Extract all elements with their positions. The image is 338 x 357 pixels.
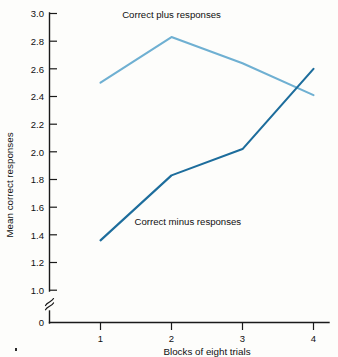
y-tick-label-1.4: 1.4 (31, 230, 44, 241)
series-line-correct-plus (101, 37, 314, 95)
series-annotation-correct-plus: Correct plus responses (122, 9, 221, 20)
chart-plot-area: 3.0 2.8 2.6 2.4 2.2 2.0 1.8 1.6 1.4 1.2 … (0, 0, 338, 357)
y-tick-label-1.6: 1.6 (31, 202, 44, 213)
y-tick-label-2.2: 2.2 (31, 119, 44, 130)
y-axis-tick-labels: 3.0 2.8 2.6 2.4 2.2 2.0 1.8 1.6 1.4 1.2 … (31, 8, 44, 328)
y-tick-label-2.6: 2.6 (31, 64, 44, 75)
y-tick-label-1.2: 1.2 (31, 257, 44, 268)
y-tick-label-0: 0 (39, 317, 44, 328)
x-tick-label-4: 4 (311, 333, 316, 344)
line-chart-figure: 3.0 2.8 2.6 2.4 2.2 2.0 1.8 1.6 1.4 1.2 … (0, 0, 338, 357)
x-axis-ticks (101, 323, 314, 331)
y-tick-label-2.0: 2.0 (31, 147, 44, 158)
x-tick-label-2: 2 (169, 333, 174, 344)
x-tick-label-3: 3 (240, 333, 245, 344)
series-annotation-correct-minus: Correct minus responses (135, 216, 242, 227)
y-tick-label-1.8: 1.8 (31, 174, 44, 185)
print-speck (15, 348, 17, 351)
x-tick-label-1: 1 (98, 333, 103, 344)
y-axis-ticks (50, 14, 58, 291)
y-axis-title: Mean correct responses (4, 132, 15, 237)
y-tick-label-3.0: 3.0 (31, 8, 44, 19)
x-axis-title: Blocks of eight trials (163, 346, 250, 357)
y-tick-label-1.0: 1.0 (31, 285, 44, 296)
y-tick-label-2.4: 2.4 (31, 91, 44, 102)
y-tick-label-2.8: 2.8 (31, 36, 44, 47)
series-line-correct-minus (101, 69, 314, 241)
x-axis-tick-labels: 1 2 3 4 (98, 333, 316, 344)
